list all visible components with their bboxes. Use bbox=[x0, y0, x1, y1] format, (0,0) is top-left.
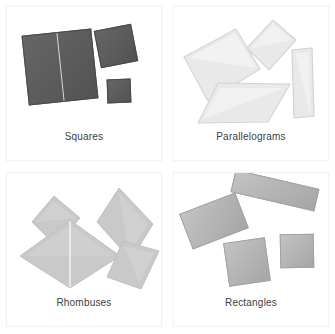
rectangle-square-right-shading bbox=[281, 235, 314, 268]
panel-rectangles[interactable]: Rectangles bbox=[173, 172, 329, 327]
square-small[interactable] bbox=[107, 79, 132, 104]
panel-squares[interactable]: Squares bbox=[6, 6, 162, 161]
square-medium[interactable] bbox=[94, 24, 139, 69]
rectangle-long-top[interactable] bbox=[231, 172, 320, 211]
square-large-seam bbox=[56, 33, 64, 101]
square-large[interactable] bbox=[22, 29, 99, 106]
rectangle-lower-center[interactable] bbox=[223, 237, 271, 286]
parallelograms-shape-stage bbox=[174, 7, 328, 125]
panel-label-rhombuses: Rhombuses bbox=[7, 297, 161, 309]
panel-label-parallelograms: Parallelograms bbox=[174, 131, 328, 143]
rectangles-shape-stage bbox=[174, 173, 328, 291]
panel-rhombuses[interactable]: Rhombuses bbox=[6, 172, 162, 327]
square-medium-shading bbox=[95, 25, 137, 67]
square-small-shading bbox=[108, 80, 131, 103]
rectangle-lower-center-shading bbox=[224, 238, 269, 285]
rhombus-lower-right[interactable] bbox=[105, 239, 161, 291]
panel-parallelograms[interactable]: Parallelograms bbox=[173, 6, 329, 161]
panel-label-squares: Squares bbox=[7, 131, 161, 143]
shape-category-figure: Squares Parallelograms bbox=[0, 0, 335, 334]
rhombuses-shape-stage bbox=[7, 173, 161, 291]
parallelogram-tall-thin[interactable] bbox=[288, 46, 318, 120]
rectangle-square-right[interactable] bbox=[280, 234, 315, 269]
rectangle-long-top-shading bbox=[232, 172, 319, 210]
panel-label-rectangles: Rectangles bbox=[174, 297, 328, 309]
squares-shape-stage bbox=[7, 7, 161, 125]
parallelogram-large-bottom[interactable] bbox=[196, 81, 292, 125]
